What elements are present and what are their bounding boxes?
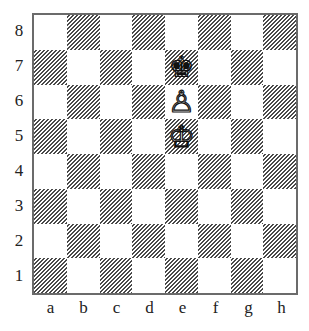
- square-c8: [100, 15, 133, 50]
- square-g7: [231, 50, 264, 85]
- square-f3: [198, 189, 231, 224]
- square-f5: [198, 119, 231, 154]
- square-f8: [198, 15, 231, 50]
- rank-label-7: 7: [12, 56, 26, 76]
- square-a6: [34, 85, 67, 120]
- square-h6: [263, 85, 296, 120]
- square-d2: [132, 224, 165, 259]
- square-d7: [132, 50, 165, 85]
- black-king-icon: ♚: [168, 52, 195, 82]
- square-b7: [67, 50, 100, 85]
- rank-label-5: 5: [12, 126, 26, 146]
- square-c4: [100, 154, 133, 189]
- square-h8: [263, 15, 296, 50]
- square-b3: [67, 189, 100, 224]
- square-d6: [132, 85, 165, 120]
- square-a1: [34, 258, 67, 293]
- square-a4: [34, 154, 67, 189]
- square-d5: [132, 119, 165, 154]
- square-b1: [67, 258, 100, 293]
- square-a3: [34, 189, 67, 224]
- square-h3: [263, 189, 296, 224]
- square-e3: [165, 189, 198, 224]
- file-label-d: d: [133, 298, 166, 318]
- square-f1: [198, 258, 231, 293]
- square-g1: [231, 258, 264, 293]
- square-f6: [198, 85, 231, 120]
- square-a7: [34, 50, 67, 85]
- file-label-b: b: [67, 298, 100, 318]
- square-f2: [198, 224, 231, 259]
- square-b5: [67, 119, 100, 154]
- square-h7: [263, 50, 296, 85]
- square-h5: [263, 119, 296, 154]
- square-b6: [67, 85, 100, 120]
- square-d1: [132, 258, 165, 293]
- square-g5: [231, 119, 264, 154]
- square-c7: [100, 50, 133, 85]
- square-g2: [231, 224, 264, 259]
- square-c5: [100, 119, 133, 154]
- file-label-g: g: [232, 298, 265, 318]
- rank-label-8: 8: [12, 21, 26, 41]
- square-g3: [231, 189, 264, 224]
- rank-label-3: 3: [12, 196, 26, 216]
- square-a8: [34, 15, 67, 50]
- square-c3: [100, 189, 133, 224]
- square-c6: [100, 85, 133, 120]
- square-e8: [165, 15, 198, 50]
- square-h1: [263, 258, 296, 293]
- square-b4: [67, 154, 100, 189]
- square-c2: [100, 224, 133, 259]
- square-h4: [263, 154, 296, 189]
- white-pawn-icon: ♙: [168, 87, 195, 117]
- square-c1: [100, 258, 133, 293]
- file-label-h: h: [265, 298, 298, 318]
- square-e2: [165, 224, 198, 259]
- square-a2: [34, 224, 67, 259]
- square-e7: ♚: [165, 50, 198, 85]
- square-g6: [231, 85, 264, 120]
- square-f7: [198, 50, 231, 85]
- square-d8: [132, 15, 165, 50]
- white-king-icon: ♔: [168, 122, 195, 152]
- rank-label-6: 6: [12, 91, 26, 111]
- square-d4: [132, 154, 165, 189]
- square-b8: [67, 15, 100, 50]
- square-e4: [165, 154, 198, 189]
- square-e5: ♔: [165, 119, 198, 154]
- chess-board: ♚♙♔: [32, 13, 298, 295]
- square-a5: [34, 119, 67, 154]
- square-g4: [231, 154, 264, 189]
- square-e1: [165, 258, 198, 293]
- file-label-c: c: [100, 298, 133, 318]
- square-g8: [231, 15, 264, 50]
- file-label-e: e: [166, 298, 199, 318]
- file-label-f: f: [199, 298, 232, 318]
- square-f4: [198, 154, 231, 189]
- file-label-a: a: [34, 298, 67, 318]
- square-e6: ♙: [165, 85, 198, 120]
- square-h2: [263, 224, 296, 259]
- square-d3: [132, 189, 165, 224]
- rank-label-4: 4: [12, 161, 26, 181]
- rank-label-1: 1: [12, 266, 26, 286]
- square-b2: [67, 224, 100, 259]
- rank-label-2: 2: [12, 231, 26, 251]
